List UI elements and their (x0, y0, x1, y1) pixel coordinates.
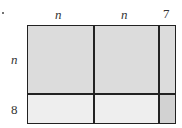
side-label-8: 8 (11, 102, 18, 118)
top-label-7: 7 (163, 6, 170, 22)
cell-8-by-7 (159, 94, 175, 123)
top-label-n-2: n (121, 7, 128, 23)
cell-8-by-n-1 (28, 94, 94, 123)
side-label-n: n (11, 52, 18, 68)
divider-vertical-1 (93, 26, 95, 123)
cell-8-by-n-2 (94, 94, 159, 123)
area-model-grid (27, 25, 176, 124)
bullet-marker (2, 12, 4, 14)
top-label-n-1: n (55, 7, 62, 23)
divider-vertical-2 (158, 26, 160, 123)
cell-n-by-n-2 (94, 26, 159, 94)
cell-n-by-7 (159, 26, 175, 94)
divider-horizontal (28, 93, 175, 95)
cell-n-by-n-1 (28, 26, 94, 94)
